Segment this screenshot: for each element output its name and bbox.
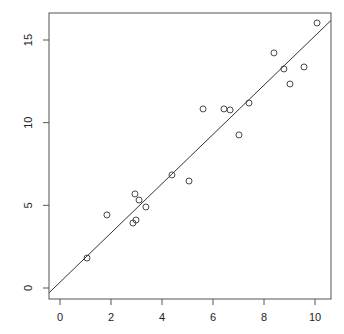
regression-line <box>49 20 331 292</box>
data-point <box>236 132 242 138</box>
y-tick-label: 0 <box>22 285 34 291</box>
data-point <box>246 100 252 106</box>
x-axis: 0246810 <box>57 299 321 323</box>
x-tick-label: 4 <box>159 311 165 323</box>
data-point <box>301 64 307 70</box>
data-point <box>200 106 206 112</box>
y-axis: 051015 <box>22 34 49 291</box>
data-point <box>136 197 142 203</box>
x-tick-label: 10 <box>309 311 321 323</box>
data-point <box>271 50 277 56</box>
data-point <box>314 20 320 26</box>
x-tick-label: 0 <box>57 311 63 323</box>
data-point <box>143 204 149 210</box>
y-tick-label: 10 <box>22 117 34 129</box>
data-point <box>132 191 138 197</box>
x-tick-label: 2 <box>108 311 114 323</box>
x-tick-label: 6 <box>210 311 216 323</box>
data-point <box>221 106 227 112</box>
data-point <box>186 178 192 184</box>
fitted-line <box>49 20 331 292</box>
data-point <box>104 212 110 218</box>
data-point <box>287 81 293 87</box>
y-tick-label: 15 <box>22 34 34 46</box>
scatter-plot: 0246810 051015 <box>0 0 344 334</box>
x-tick-label: 8 <box>261 311 267 323</box>
y-tick-label: 5 <box>22 202 34 208</box>
data-point <box>281 66 287 72</box>
data-point <box>227 107 233 113</box>
data-point <box>169 172 175 178</box>
